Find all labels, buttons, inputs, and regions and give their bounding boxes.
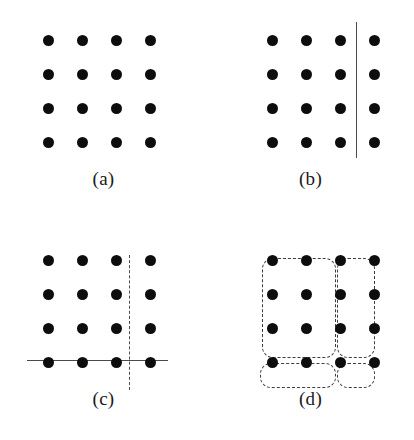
grid-dot: [267, 35, 278, 46]
grid-dot: [335, 323, 346, 334]
grid-dot: [335, 137, 346, 148]
grid-dot: [43, 103, 54, 114]
figure-root: (a) (b) (c) (d): [0, 0, 414, 440]
grid-dot: [111, 69, 122, 80]
grid-dot: [369, 289, 380, 300]
panel-a: (a): [0, 0, 207, 220]
group-box-block-3x3: [262, 258, 336, 358]
grid-dot: [43, 323, 54, 334]
grid-dot: [369, 255, 380, 266]
grid-dot: [301, 255, 312, 266]
grid-dot: [369, 357, 380, 368]
grid-dot: [77, 289, 88, 300]
grid-dot: [111, 255, 122, 266]
grid-dot: [145, 255, 156, 266]
grid-dot: [77, 323, 88, 334]
dot-grid-b: [207, 0, 414, 170]
grid-dot: [145, 69, 156, 80]
grid-dot: [301, 35, 312, 46]
grid-dot: [43, 69, 54, 80]
grid-dot: [43, 289, 54, 300]
grid-dot: [267, 69, 278, 80]
grid-dot: [301, 137, 312, 148]
grid-dot: [111, 35, 122, 46]
grid-dot: [43, 255, 54, 266]
grid-dot: [111, 323, 122, 334]
grid-dot: [111, 357, 122, 368]
grid-dot: [267, 103, 278, 114]
panel-b: (b): [207, 0, 414, 220]
grid-dot: [145, 323, 156, 334]
grid-dot: [335, 357, 346, 368]
grid-dot: [111, 289, 122, 300]
dot-grid-d: [207, 220, 414, 390]
grid-dot: [267, 323, 278, 334]
grid-dot: [369, 137, 380, 148]
group-box-column-3x1: [337, 258, 375, 358]
grid-dot: [335, 255, 346, 266]
grid-dot: [77, 357, 88, 368]
dot-grid-a: [0, 0, 207, 170]
grid-dot: [145, 35, 156, 46]
dot-grid-c: [0, 220, 207, 390]
grid-dot: [77, 137, 88, 148]
divider-solid-vertical: [356, 22, 357, 158]
grid-dot: [369, 103, 380, 114]
grid-dot: [369, 323, 380, 334]
grid-dot: [267, 137, 278, 148]
grid-dot: [301, 357, 312, 368]
panel-label-a: (a): [0, 168, 207, 190]
grid-dot: [77, 103, 88, 114]
grid-dot: [267, 289, 278, 300]
panel-label-b: (b): [207, 168, 414, 190]
grid-dot: [145, 103, 156, 114]
grid-dot: [43, 357, 54, 368]
grid-dot: [301, 289, 312, 300]
panel-d: (d): [207, 220, 414, 440]
grid-dot: [145, 289, 156, 300]
grid-dot: [267, 357, 278, 368]
grid-dot: [267, 255, 278, 266]
grid-dot: [335, 103, 346, 114]
grid-dot: [335, 69, 346, 80]
grid-dot: [301, 323, 312, 334]
grid-dot: [335, 289, 346, 300]
grid-dot: [43, 137, 54, 148]
grid-dot: [145, 137, 156, 148]
grid-dot: [77, 69, 88, 80]
grid-dot: [369, 69, 380, 80]
panel-label-d: (d): [207, 388, 414, 410]
grid-dot: [77, 255, 88, 266]
grid-dot: [335, 35, 346, 46]
panel-c: (c): [0, 220, 207, 440]
panel-label-c: (c): [0, 388, 207, 410]
grid-dot: [301, 103, 312, 114]
divider-dashed-vertical: [129, 255, 130, 390]
grid-dot: [301, 69, 312, 80]
grid-dot: [145, 357, 156, 368]
grid-dot: [111, 137, 122, 148]
grid-dot: [43, 35, 54, 46]
grid-dot: [369, 35, 380, 46]
grid-dot: [77, 35, 88, 46]
grid-dot: [111, 103, 122, 114]
